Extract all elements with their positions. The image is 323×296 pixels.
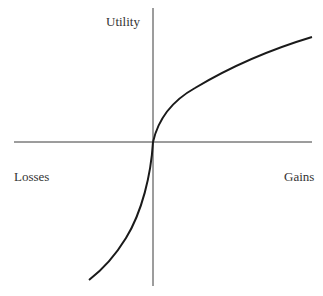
y-axis-label: Utility — [106, 14, 140, 30]
gain-curve — [153, 37, 312, 142]
diagram-canvas — [0, 0, 323, 296]
x-axis-negative-label: Losses — [14, 169, 49, 185]
x-axis-positive-label: Gains — [284, 169, 314, 185]
loss-curve — [89, 142, 153, 280]
